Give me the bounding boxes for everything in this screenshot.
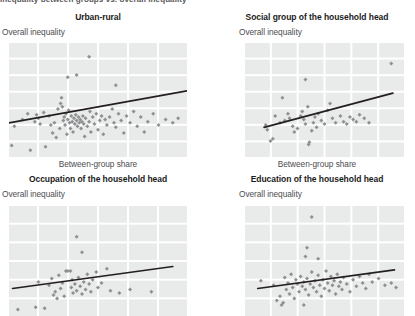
grid-cell	[99, 60, 127, 75]
grid-cell	[9, 206, 37, 223]
y-axis-label-occupation: Overall inequality	[2, 189, 65, 199]
grid-cell	[299, 76, 324, 91]
grid-cell	[379, 126, 404, 141]
grid-cell	[69, 206, 97, 223]
grid-cell	[9, 142, 37, 157]
grid-cell	[39, 243, 67, 260]
grid-cell	[272, 60, 297, 75]
grid-cell	[272, 76, 297, 91]
grid-cell	[299, 206, 324, 223]
panel-social-group: Social group of the household head Overa…	[219, 12, 415, 170]
grid-cell	[299, 60, 324, 75]
grid-cell	[245, 142, 270, 157]
grid-cell	[39, 43, 67, 58]
panel-title-education: Education of the household head	[219, 174, 415, 184]
grid-cell	[326, 109, 351, 124]
grid-cell	[159, 60, 187, 75]
grid-cell	[326, 243, 351, 260]
figure-header-cutoff: Inequality between groups vs. overall in…	[0, 0, 415, 4]
panel-urban-rural: Urban-rural Overall inequality Between-g…	[0, 12, 196, 170]
panel-title-urban-rural: Urban-rural	[0, 12, 196, 22]
panel-occupation: Occupation of the household head Overall…	[0, 174, 196, 316]
grid-cell	[39, 299, 67, 316]
grid-cell	[299, 142, 324, 157]
grid-cell	[352, 206, 377, 223]
grid-cell	[9, 43, 37, 58]
plot-area-occupation	[9, 206, 187, 316]
grid-cell	[69, 299, 97, 316]
grid-cell	[159, 76, 187, 91]
grid-cell	[272, 243, 297, 260]
grid-cell	[39, 142, 67, 157]
grid-cell	[379, 76, 404, 91]
grid-cell	[129, 243, 157, 260]
grid-cell	[245, 109, 270, 124]
grid-cell	[299, 43, 324, 58]
grid-cell	[39, 76, 67, 91]
grid-cell	[272, 126, 297, 141]
grid-cell	[379, 109, 404, 124]
grid-cell	[9, 93, 37, 108]
grid-cell	[129, 206, 157, 223]
grid-cell	[379, 243, 404, 260]
grid-cell	[379, 206, 404, 223]
grid-cell	[245, 225, 270, 242]
plot-area-education	[245, 206, 404, 316]
grid-cell	[379, 43, 404, 58]
grid-cell	[39, 262, 67, 279]
grid-cell	[326, 43, 351, 58]
grid-cell	[159, 126, 187, 141]
grid-cell	[299, 299, 324, 316]
grid-cell	[69, 262, 97, 279]
grid-cell	[245, 206, 270, 223]
grid-cell	[299, 93, 324, 108]
grid-cell	[129, 281, 157, 298]
grid-cell	[159, 225, 187, 242]
grid-cell	[99, 299, 127, 316]
grid-cell	[99, 43, 127, 58]
grid-cell	[299, 126, 324, 141]
grid-cell	[39, 225, 67, 242]
grid-cell	[352, 126, 377, 141]
y-axis-label-social-group: Overall inequality	[239, 27, 302, 37]
grid-cell	[159, 206, 187, 223]
panel-title-social-group: Social group of the household head	[219, 12, 415, 22]
grid-cell	[352, 43, 377, 58]
grid-cell	[9, 60, 37, 75]
grid-cell	[159, 281, 187, 298]
y-axis-label-education: Overall inequality	[239, 189, 302, 199]
x-axis-label-urban-rural: Between-group share	[0, 159, 196, 169]
grid-cell	[69, 76, 97, 91]
grid-cell	[9, 262, 37, 279]
grid-cell	[352, 243, 377, 260]
panel-title-occupation: Occupation of the household head	[0, 174, 196, 184]
grid-cell	[326, 206, 351, 223]
grid-cell	[245, 76, 270, 91]
grid-cell	[352, 299, 377, 316]
grid-cell	[352, 262, 377, 279]
grid-cell	[272, 43, 297, 58]
grid-cell	[129, 60, 157, 75]
grid-cell	[69, 225, 97, 242]
panel-education: Education of the household head Overall …	[219, 174, 415, 316]
grid-cell	[379, 60, 404, 75]
grid-cell	[326, 225, 351, 242]
grid-cell	[159, 243, 187, 260]
grid-cell	[245, 243, 270, 260]
scatter-svg-social-group	[245, 43, 404, 157]
scatter-svg-urban-rural	[9, 43, 187, 157]
grid-cell	[379, 225, 404, 242]
grid-cell	[159, 262, 187, 279]
grid-cell	[129, 43, 157, 58]
grid-cell	[99, 76, 127, 91]
grid-cell	[326, 299, 351, 316]
grid-cell	[99, 206, 127, 223]
grid-cell	[9, 126, 37, 141]
grid-cell	[99, 225, 127, 242]
grid-cell	[69, 60, 97, 75]
grid-cell	[352, 142, 377, 157]
grid-cell	[326, 142, 351, 157]
grid-cell	[129, 126, 157, 141]
grid-cell	[245, 299, 270, 316]
grid-cell	[245, 93, 270, 108]
